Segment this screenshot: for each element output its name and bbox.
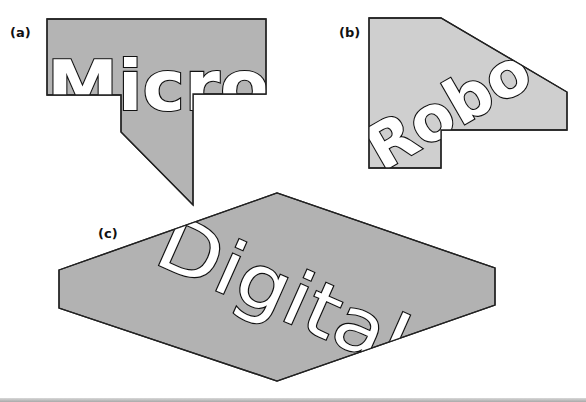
diagram-canvas: Micro Robo Digital	[0, 0, 586, 402]
panel-c-label: (c)	[98, 227, 118, 240]
panel-a-label: (a)	[10, 26, 31, 39]
panel-b: Robo	[353, 18, 567, 185]
panel-a-word: Micro	[47, 45, 269, 127]
bottom-divider	[0, 398, 586, 402]
panel-c: Digital	[59, 193, 495, 385]
panel-b-label: (b)	[339, 26, 360, 39]
panel-a: Micro	[47, 19, 269, 205]
